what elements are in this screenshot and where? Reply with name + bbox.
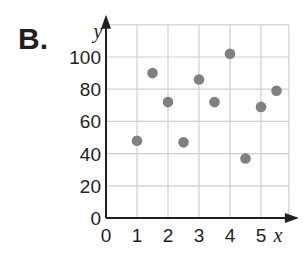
x-tick-label: 2 [163,225,174,246]
x-tick-label: 4 [225,225,236,246]
scatter-plot: 020406080100012345xy [0,0,308,261]
data-point [163,97,174,108]
y-tick-label: 80 [80,79,101,100]
data-point [209,97,220,108]
y-tick-label: 0 [90,208,101,229]
x-tick-label: 5 [256,225,267,246]
data-point [256,102,267,113]
y-tick-label: 40 [80,144,101,165]
x-axis-label: x [273,224,283,246]
y-tick-label: 60 [80,111,101,132]
x-tick-label: 1 [132,225,143,246]
x-tick-label: 0 [101,225,112,246]
data-point [194,74,205,85]
data-point [240,153,251,164]
y-tick-label: 20 [80,176,101,197]
data-point [271,86,282,97]
y-tick-label: 100 [69,47,101,68]
y-axis-arrow-icon [101,15,111,29]
data-point [178,137,189,148]
data-point [225,48,236,59]
data-point [147,68,158,79]
data-point [132,135,143,146]
x-tick-label: 3 [194,225,205,246]
y-axis-label: y [92,20,103,43]
x-axis-arrow-icon [285,213,299,223]
